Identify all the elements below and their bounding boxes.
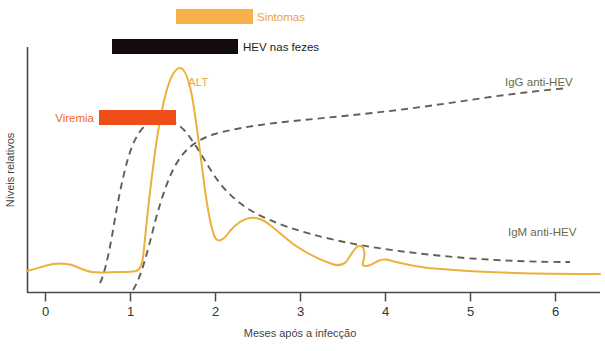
x-tick-marks [46,293,556,302]
chart-figure: 0 1 2 3 4 5 6 Níveis relativos Meses apó… [0,0,605,351]
sintomas-label: Sintomas [257,11,305,23]
igm-anti-hev-curve [100,119,570,283]
viremia-label: Viremia [55,112,94,124]
annotation-sintomas: Sintomas [176,9,305,24]
x-tick-label-4: 4 [382,304,389,319]
hev-nas-fezes-label: HEV nas fezes [243,41,319,53]
alt-label: ALT [188,76,208,88]
y-axis-title: Níveis relativos [4,132,16,207]
hev-nas-fezes-bar [112,39,238,54]
annotation-hev-nas-fezes: HEV nas fezes [112,39,319,54]
igg-anti-hev-label: IgG anti-HEV [505,76,573,88]
alt-curve [27,68,600,274]
x-tick-label-6: 6 [552,304,559,319]
x-tick-label-1: 1 [127,304,134,319]
igg-anti-hev-curve [133,88,568,290]
sintomas-bar [176,9,253,24]
x-axis-title: Meses após a infecção [244,327,357,339]
x-tick-label-5: 5 [467,304,474,319]
x-tick-label-0: 0 [42,304,49,319]
x-tick-label-2: 2 [212,304,219,319]
x-tick-label-3: 3 [297,304,304,319]
annotation-viremia: Viremia [55,110,176,125]
viremia-bar [99,110,176,125]
hev-serology-chart: 0 1 2 3 4 5 6 Níveis relativos Meses apó… [0,0,605,351]
x-tick-labels: 0 1 2 3 4 5 6 [42,304,559,319]
igm-anti-hev-label: IgM anti-HEV [508,226,577,238]
